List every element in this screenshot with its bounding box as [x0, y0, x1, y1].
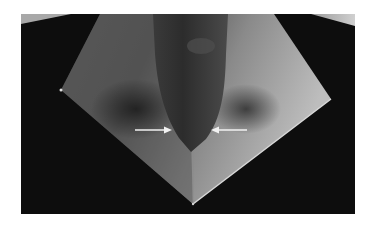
- vertex-highlight: [192, 203, 194, 205]
- photo-illustration: [21, 14, 355, 214]
- background-surface-left: [21, 14, 71, 24]
- background-surface-right: [311, 14, 355, 26]
- punch-marking: [187, 38, 215, 54]
- corner-highlight-left: [60, 89, 63, 92]
- photograph: V-bend forming with punch; arrows indica…: [21, 14, 355, 214]
